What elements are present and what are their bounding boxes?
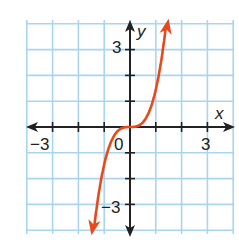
cubic-graph: −3 3 3 −3 0 x y (0, 0, 239, 247)
y-tick-label-3: 3 (112, 38, 121, 57)
x-axis-label: x (214, 104, 224, 123)
origin-label: 0 (114, 135, 123, 154)
y-axis-label: y (136, 22, 147, 41)
x-tick-label-3: 3 (201, 135, 210, 154)
x-tick-label-neg3: −3 (30, 135, 49, 154)
y-tick-label-neg3: −3 (101, 198, 120, 217)
